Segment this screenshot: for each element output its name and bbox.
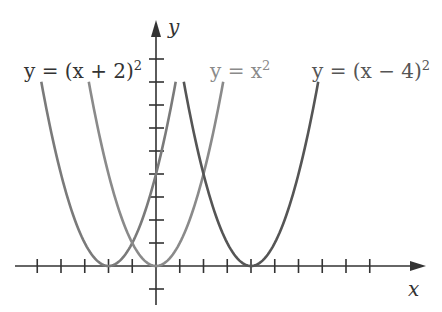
label-mid-text: y = x	[209, 59, 263, 83]
label-x-squared: y = x2	[209, 58, 270, 83]
parabola-chart: x y y = (x + 2)2 y = x2 y = (x − 4)2	[0, 0, 442, 312]
label-right-text: y = (x − 4)	[311, 59, 422, 83]
label-left-text: y = (x + 2)	[23, 59, 134, 83]
y-axis-arrow-icon	[151, 20, 161, 37]
y-axis-label: y	[167, 15, 180, 39]
label-left-sup: 2	[134, 58, 142, 73]
x-axis-arrow-icon	[410, 261, 426, 271]
label-right-sup: 2	[422, 58, 430, 73]
label-x-minus-4-squared: y = (x − 4)2	[311, 58, 430, 83]
curve-labels: y = (x + 2)2 y = x2 y = (x − 4)2	[23, 58, 430, 83]
x-axis-label: x	[408, 277, 419, 301]
axis-labels: x y	[167, 15, 419, 301]
label-mid-sup: 2	[262, 58, 270, 73]
parabola-curve	[184, 82, 318, 266]
label-x-plus-2-squared: y = (x + 2)2	[23, 58, 142, 83]
curves	[41, 82, 318, 266]
